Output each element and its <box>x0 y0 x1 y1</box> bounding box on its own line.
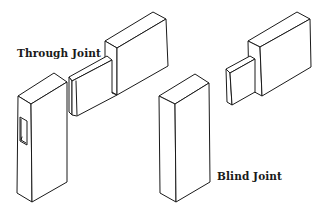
through-mortise-post <box>17 73 67 202</box>
through-joint-label: Through Joint <box>17 47 101 59</box>
through-tenon-rail-block <box>105 12 168 95</box>
blind-mortise-post <box>159 74 210 202</box>
through-joint-group <box>17 12 168 202</box>
through-tenon <box>69 56 117 116</box>
blind-tenon <box>226 56 255 105</box>
blind-joint-label: Blind Joint <box>217 170 282 182</box>
through-mortise-slot <box>20 117 27 145</box>
blind-tenon-rail-block <box>248 12 311 96</box>
